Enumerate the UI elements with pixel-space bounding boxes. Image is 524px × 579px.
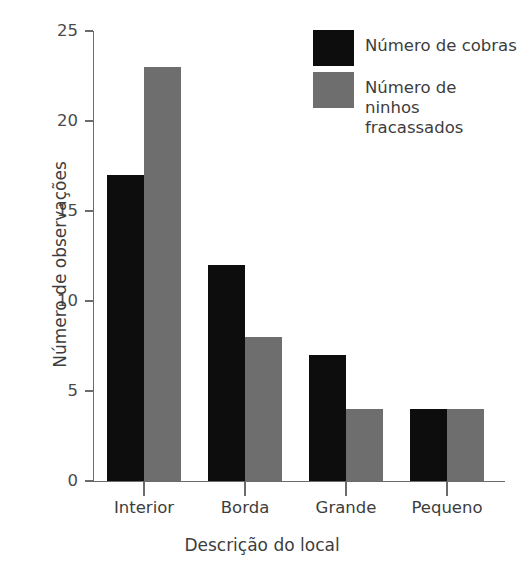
- y-tick-mark: [85, 390, 93, 391]
- legend-item: Número de ninhos fracassados: [313, 72, 518, 138]
- x-tick-mark: [143, 482, 144, 496]
- y-tick-label: 25: [40, 23, 78, 40]
- y-axis-line: [93, 31, 94, 482]
- x-tick-label-pequeno: Pequeno: [411, 500, 482, 517]
- bar: [208, 265, 245, 481]
- legend-label: Número de cobras: [365, 30, 517, 56]
- x-tick-mark: [446, 482, 447, 496]
- x-tick-label-interior: Interior: [114, 500, 174, 517]
- bar: [309, 355, 346, 481]
- bar: [245, 337, 282, 481]
- bar: [346, 409, 383, 481]
- x-tick-label-borda: Borda: [221, 500, 270, 517]
- y-tick-mark: [85, 120, 93, 121]
- legend-label: Número de ninhos fracassados: [365, 72, 518, 138]
- legend-item: Número de cobras: [313, 30, 518, 66]
- x-tick-mark: [345, 482, 346, 496]
- y-tick-mark: [85, 30, 93, 31]
- bar: [107, 175, 144, 481]
- x-tick-mark: [244, 482, 245, 496]
- bar: [447, 409, 484, 481]
- legend-swatch: [313, 72, 354, 108]
- bar-chart: 0510152025 InteriorBordaGrandePequeno De…: [0, 0, 524, 579]
- y-tick-mark: [85, 300, 93, 301]
- x-axis-title: Descrição do local: [0, 537, 524, 554]
- y-tick-mark: [85, 210, 93, 211]
- bar: [410, 409, 447, 481]
- y-tick-mark: [85, 480, 93, 481]
- x-axis-line: [93, 481, 505, 482]
- chart-legend: Número de cobrasNúmero de ninhos fracass…: [313, 30, 518, 144]
- y-axis-title: Número de observações: [52, 115, 69, 415]
- bar: [144, 67, 181, 481]
- x-tick-label-grande: Grande: [316, 500, 377, 517]
- y-tick-label: 0: [40, 473, 78, 490]
- legend-swatch: [313, 30, 354, 66]
